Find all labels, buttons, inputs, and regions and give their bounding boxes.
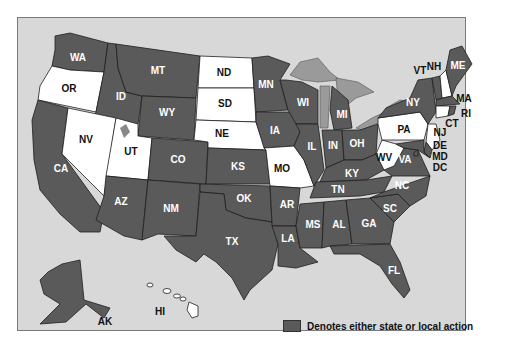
lake-superior xyxy=(290,58,340,82)
label-UT: UT xyxy=(124,146,137,157)
label-RI: RI xyxy=(461,108,471,119)
label-AR: AR xyxy=(280,199,295,210)
label-WV: WV xyxy=(376,152,392,163)
label-ND: ND xyxy=(217,67,231,78)
legend-swatch xyxy=(283,320,301,332)
label-GA: GA xyxy=(362,218,377,229)
label-WA: WA xyxy=(70,52,86,63)
label-ME: ME xyxy=(451,60,466,71)
label-KY: KY xyxy=(345,168,359,179)
label-TN: TN xyxy=(331,184,344,195)
label-AK: AK xyxy=(98,316,113,327)
label-NV: NV xyxy=(79,134,93,145)
label-TX: TX xyxy=(226,236,239,247)
label-MS: MS xyxy=(306,219,321,230)
label-SD: SD xyxy=(218,98,232,109)
label-MI: MI xyxy=(336,109,347,120)
label-CO: CO xyxy=(171,154,186,165)
label-ID: ID xyxy=(116,91,126,102)
label-IN: IN xyxy=(328,140,338,151)
lake-michigan xyxy=(320,86,330,128)
legend-label: Denotes either state or local action xyxy=(307,321,473,332)
label-KS: KS xyxy=(231,161,245,172)
label-OR: OR xyxy=(62,83,78,94)
label-LA: LA xyxy=(281,233,294,244)
label-SC: SC xyxy=(383,203,397,214)
label-MD: MD xyxy=(432,151,448,162)
us-map: WA OR CA ID NV MT WY UT AZ CO NM ND SD N… xyxy=(0,0,508,352)
label-AZ: AZ xyxy=(114,196,127,207)
state-AK[interactable] xyxy=(40,260,110,324)
label-MO: MO xyxy=(274,163,290,174)
label-NC: NC xyxy=(395,180,409,191)
label-NM: NM xyxy=(163,203,179,214)
label-PA: PA xyxy=(397,124,410,135)
label-VA: VA xyxy=(398,154,411,165)
state-WY[interactable] xyxy=(138,96,196,140)
label-NY: NY xyxy=(406,97,420,108)
label-VT: VT xyxy=(414,65,427,76)
label-CA: CA xyxy=(54,163,68,174)
label-IL: IL xyxy=(308,141,317,152)
label-NE: NE xyxy=(215,128,229,139)
label-OH: OH xyxy=(350,138,365,149)
label-CT: CT xyxy=(445,118,458,129)
label-MT: MT xyxy=(151,65,165,76)
label-NJ: NJ xyxy=(434,127,447,138)
label-WI: WI xyxy=(297,97,309,108)
label-FL: FL xyxy=(388,265,400,276)
legend: Denotes either state or local action xyxy=(283,320,473,332)
label-HI: HI xyxy=(155,306,165,317)
label-MA: MA xyxy=(456,93,472,104)
state-ME[interactable] xyxy=(446,46,472,96)
label-DE: DE xyxy=(433,140,447,151)
label-OK: OK xyxy=(237,193,253,204)
label-DC: DC xyxy=(433,162,447,173)
label-AL: AL xyxy=(332,219,345,230)
label-MN: MN xyxy=(258,79,274,90)
label-NH: NH xyxy=(427,61,441,72)
label-WY: WY xyxy=(159,107,175,118)
label-IA: IA xyxy=(270,125,280,136)
